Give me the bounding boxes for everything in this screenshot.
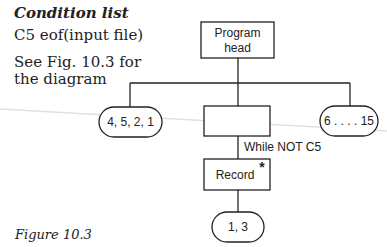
record-label: Record [216, 168, 255, 182]
program-head-label-2: head [224, 41, 251, 55]
figure-caption: Figure 10.3 [15, 227, 92, 242]
record-box: Record * [204, 159, 270, 190]
left-leaf-label: 4, 5, 2, 1 [107, 115, 154, 129]
right-leaf-node: 6 . . . . 15 [320, 106, 378, 136]
right-leaf-label: 6 . . . . 15 [324, 114, 374, 128]
structure-diagram: Program head 4, 5, 2, 1 6 . . . . 15 Whi… [0, 0, 387, 247]
middle-box [204, 106, 270, 136]
left-leaf-node: 4, 5, 2, 1 [99, 107, 162, 137]
program-head-label-1: Program [214, 26, 260, 40]
bottom-leaf-label: 1, 3 [228, 220, 248, 234]
program-head-box: Program head [201, 22, 274, 58]
iteration-asterisk-icon: * [259, 159, 265, 175]
bottom-leaf-node: 1, 3 [212, 212, 264, 242]
iteration-condition-label: While NOT C5 [244, 140, 321, 154]
